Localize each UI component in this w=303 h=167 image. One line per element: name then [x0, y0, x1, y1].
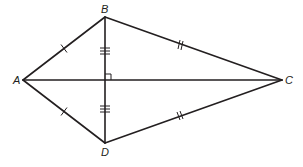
diagram-canvas: A B C D: [0, 0, 303, 167]
segment-dc: [105, 80, 282, 143]
vertex-label-d: D: [101, 146, 109, 158]
double-tick-mark-bc: [178, 40, 183, 50]
vertex-label-c: C: [285, 74, 293, 86]
right-angle-marker: [105, 74, 111, 80]
tick-mark-ab: [61, 45, 67, 53]
kite-diagram: A B C D: [0, 0, 303, 167]
tick-mark-ad: [61, 108, 67, 116]
vertex-label-b: B: [101, 3, 108, 15]
vertex-label-a: A: [12, 74, 20, 86]
segment-bc: [105, 17, 282, 80]
